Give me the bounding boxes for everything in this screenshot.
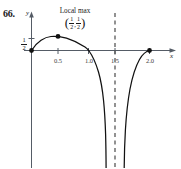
x-axis	[24, 48, 176, 53]
marked-point-local-max	[56, 34, 61, 39]
curve-left-branch	[32, 36, 107, 168]
plot-canvas	[0, 0, 181, 168]
curve-right-branch	[124, 51, 149, 169]
figure-container: 66. y x Local max (12,12) 12 0.5 1.0 1.5…	[0, 0, 181, 168]
y-axis	[29, 12, 34, 169]
marked-point-origin	[29, 48, 34, 53]
marked-point-x-two	[147, 48, 152, 53]
